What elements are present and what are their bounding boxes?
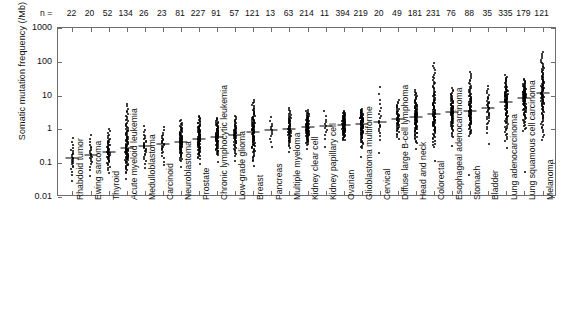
data-point bbox=[161, 152, 163, 154]
sample-size-label: 13 bbox=[266, 8, 276, 18]
data-point bbox=[432, 144, 434, 146]
x-axis-tick-mark bbox=[434, 28, 435, 32]
data-point bbox=[289, 147, 291, 149]
median-marker bbox=[536, 92, 549, 93]
data-point bbox=[506, 133, 508, 135]
data-point-outlier bbox=[144, 167, 146, 169]
data-point bbox=[107, 169, 109, 171]
data-point bbox=[541, 57, 543, 59]
x-axis-tick-mark bbox=[524, 191, 525, 195]
sample-size-label: 23 bbox=[157, 8, 167, 18]
median-marker bbox=[337, 124, 350, 125]
data-point bbox=[434, 140, 436, 142]
y-axis-tick-mark bbox=[58, 62, 62, 63]
data-point-outlier bbox=[541, 139, 543, 141]
x-axis-tick-mark bbox=[344, 191, 345, 195]
median-marker bbox=[247, 131, 260, 132]
x-axis-tick-mark bbox=[109, 191, 110, 195]
data-point bbox=[486, 92, 488, 94]
data-point bbox=[486, 132, 488, 134]
data-point bbox=[109, 166, 111, 168]
data-point bbox=[379, 132, 381, 134]
data-point bbox=[379, 86, 381, 88]
x-axis-tick-mark bbox=[488, 28, 489, 32]
data-point bbox=[198, 115, 200, 117]
data-point bbox=[469, 71, 471, 73]
sample-size-label: 121 bbox=[534, 8, 548, 18]
data-point bbox=[379, 135, 381, 137]
x-axis-tick-mark bbox=[163, 28, 164, 32]
x-axis-tick-mark bbox=[199, 28, 200, 32]
data-point-outlier bbox=[468, 174, 470, 176]
x-axis-category-label: Prostate bbox=[201, 168, 211, 200]
x-axis-tick-mark bbox=[308, 28, 309, 32]
data-point bbox=[361, 108, 363, 110]
median-marker bbox=[301, 127, 314, 128]
data-point bbox=[470, 77, 472, 79]
data-point bbox=[72, 150, 74, 152]
data-point bbox=[181, 122, 183, 124]
data-point bbox=[289, 110, 291, 112]
x-axis-category-label: Lung squamous cell carcinoma bbox=[527, 80, 537, 200]
sample-size-label: 76 bbox=[446, 8, 456, 18]
x-axis-tick-mark bbox=[91, 191, 92, 195]
data-point bbox=[323, 110, 325, 112]
sample-size-label: 20 bbox=[374, 8, 384, 18]
data-point bbox=[523, 78, 525, 80]
x-axis-tick-mark bbox=[181, 191, 182, 195]
data-point bbox=[451, 87, 453, 89]
data-point-outlier bbox=[89, 175, 91, 177]
data-point bbox=[307, 111, 309, 113]
data-point bbox=[108, 128, 110, 130]
data-point bbox=[488, 120, 490, 122]
data-point bbox=[325, 121, 327, 123]
data-point bbox=[234, 115, 236, 117]
data-point bbox=[72, 144, 74, 146]
data-point bbox=[524, 121, 526, 123]
x-axis-category-label: Lung adenocarcinoma bbox=[509, 114, 519, 200]
data-point bbox=[433, 74, 435, 76]
data-point bbox=[470, 73, 472, 75]
x-axis-tick-mark bbox=[235, 28, 236, 32]
x-axis-category-label: Diffuse large B-cell lymphoma bbox=[400, 85, 410, 200]
x-axis-category-label: Head and neck bbox=[418, 142, 428, 200]
x-axis-tick-mark bbox=[362, 28, 363, 32]
x-axis-category-label: Thyroid bbox=[111, 171, 121, 200]
data-point bbox=[72, 147, 74, 149]
x-axis-category-label: Melanoma bbox=[545, 159, 555, 200]
data-point bbox=[379, 117, 381, 119]
data-point bbox=[487, 122, 489, 124]
data-point bbox=[271, 125, 273, 127]
x-axis-tick-mark bbox=[91, 28, 92, 32]
y-axis-tick-mark bbox=[551, 96, 555, 97]
data-point bbox=[470, 93, 472, 95]
median-marker bbox=[193, 138, 206, 139]
data-point-outlier bbox=[360, 156, 362, 158]
data-point-outlier bbox=[524, 171, 526, 173]
data-point bbox=[89, 141, 91, 143]
data-point bbox=[378, 93, 380, 95]
data-point bbox=[253, 148, 255, 150]
data-point bbox=[542, 51, 544, 53]
data-point-outlier bbox=[415, 148, 417, 150]
x-axis-tick-mark bbox=[145, 191, 146, 195]
sample-size-label: 22 bbox=[67, 8, 77, 18]
median-marker bbox=[102, 151, 115, 152]
median-marker bbox=[265, 130, 278, 131]
x-axis-tick-mark bbox=[434, 191, 435, 195]
data-point bbox=[543, 134, 545, 136]
data-point bbox=[380, 115, 382, 117]
median-marker bbox=[156, 143, 169, 144]
sample-size-label: 11 bbox=[320, 8, 329, 18]
x-axis-category-label: Stomach bbox=[472, 166, 482, 200]
x-axis-tick-mark bbox=[271, 191, 272, 195]
x-axis-tick-mark bbox=[289, 28, 290, 32]
data-point bbox=[143, 134, 145, 136]
y-axis-tick-label: 0.01 bbox=[10, 192, 52, 201]
sample-size-label: 91 bbox=[211, 8, 221, 18]
x-axis-tick-mark bbox=[524, 28, 525, 32]
x-axis-tick-mark bbox=[163, 191, 164, 195]
median-marker bbox=[428, 113, 441, 114]
data-point bbox=[379, 139, 381, 141]
sample-size-label: 35 bbox=[483, 8, 493, 18]
